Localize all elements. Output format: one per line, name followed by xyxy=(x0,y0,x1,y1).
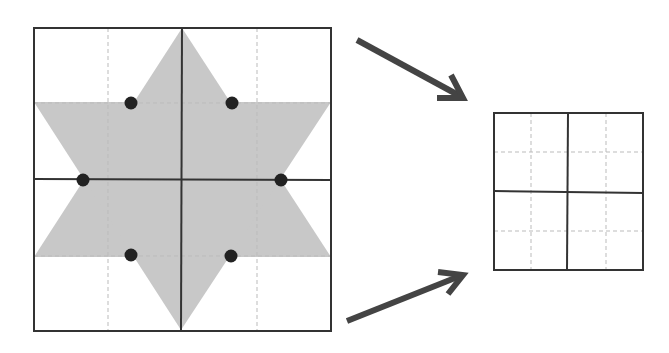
small-grid xyxy=(494,113,643,270)
small-grid-lines xyxy=(494,113,643,270)
point-dot xyxy=(226,97,239,110)
arrow-top-icon xyxy=(357,40,463,98)
point-dot xyxy=(275,174,288,187)
large-grid xyxy=(34,28,331,331)
point-dot xyxy=(77,174,90,187)
point-dot xyxy=(225,250,238,263)
point-dot xyxy=(125,249,138,262)
diagram-canvas xyxy=(0,0,669,353)
arrow-bottom-icon xyxy=(347,272,463,321)
point-dot xyxy=(125,97,138,110)
